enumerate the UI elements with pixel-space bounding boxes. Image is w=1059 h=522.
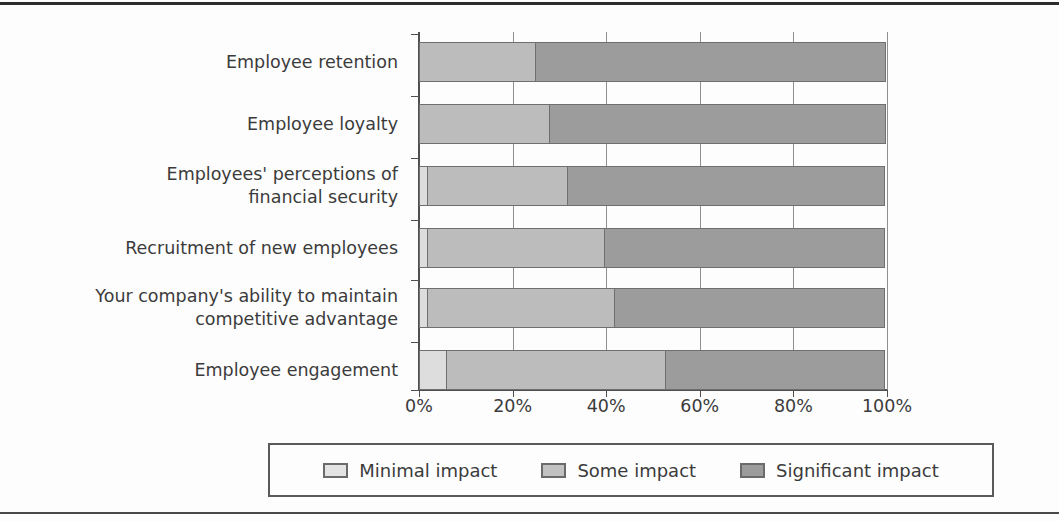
- gridline-80: [793, 32, 794, 390]
- bar-row: [419, 42, 886, 82]
- y-tick-2: [411, 158, 419, 159]
- category-label: Employee retention: [226, 51, 398, 74]
- x-tick-label: 20%: [493, 396, 532, 416]
- x-tick-label: 80%: [774, 396, 813, 416]
- bar-segment: [427, 288, 614, 328]
- category-label: Recruitment of new employees: [125, 237, 398, 260]
- bar-segment: [665, 350, 885, 390]
- gridline-40: [606, 32, 607, 390]
- gridline-100: [887, 32, 888, 390]
- bar-segment: [419, 350, 447, 390]
- x-tick-label: 40%: [587, 396, 626, 416]
- gridline-60: [700, 32, 701, 390]
- x-axis-tick-labels: 0%20%40%60%80%100%: [419, 396, 887, 422]
- bar-segment: [419, 42, 536, 82]
- bottom-rule: [0, 512, 1059, 514]
- x-tick-label: 60%: [680, 396, 719, 416]
- bar-row: [419, 228, 885, 268]
- bar-segment: [614, 288, 885, 328]
- y-tick-4: [411, 280, 419, 281]
- y-tick-1: [411, 96, 419, 97]
- bar-row: [419, 350, 885, 390]
- category-label: Your company's ability to maintain compe…: [95, 285, 398, 331]
- bar-segment: [427, 166, 567, 206]
- bar-segment: [604, 228, 885, 268]
- plot-area: [419, 32, 887, 390]
- y-axis-line: [418, 32, 420, 390]
- legend-swatch-icon: [323, 463, 348, 478]
- x-tick-label: 100%: [862, 396, 912, 416]
- y-tick-3: [411, 220, 419, 221]
- y-tick-5: [411, 342, 419, 343]
- bar-segment: [535, 42, 886, 82]
- legend-swatch-icon: [740, 463, 765, 478]
- chart-legend: Minimal impactSome impactSignificant imp…: [268, 443, 994, 497]
- top-rule: [0, 2, 1059, 5]
- chart-figure: Employee retentionEmployee loyaltyEmploy…: [0, 0, 1059, 522]
- bar-segment: [419, 104, 550, 144]
- bar-segment: [446, 350, 666, 390]
- bar-segment: [549, 104, 886, 144]
- legend-item[interactable]: Some impact: [541, 460, 696, 481]
- y-tick-0: [411, 34, 419, 35]
- legend-label: Minimal impact: [359, 460, 497, 481]
- bar-row: [419, 166, 885, 206]
- legend-item[interactable]: Significant impact: [740, 460, 939, 481]
- legend-swatch-icon: [541, 463, 566, 478]
- category-label: Employee engagement: [194, 359, 398, 382]
- bar-row: [419, 288, 885, 328]
- category-label: Employees' perceptions of financial secu…: [167, 163, 398, 209]
- bar-row: [419, 104, 886, 144]
- y-tick-6: [411, 390, 419, 391]
- legend-item[interactable]: Minimal impact: [323, 460, 497, 481]
- bar-segment: [567, 166, 885, 206]
- x-tick-label: 0%: [405, 396, 433, 416]
- gridline-20: [513, 32, 514, 390]
- bar-segment: [427, 228, 605, 268]
- legend-label: Some impact: [577, 460, 696, 481]
- category-label: Employee loyalty: [247, 113, 398, 136]
- legend-label: Significant impact: [776, 460, 939, 481]
